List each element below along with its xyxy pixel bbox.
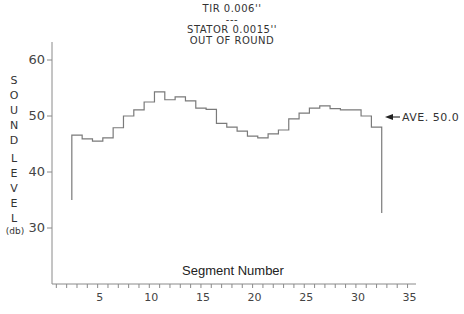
sound-level-step-line xyxy=(72,92,382,213)
x-axis-label: Segment Number xyxy=(182,263,285,278)
x-tick-label: 5 xyxy=(96,291,103,304)
y-tick-label: 60 xyxy=(28,52,45,67)
x-tick-label: 15 xyxy=(196,291,210,304)
x-tick-label: 10 xyxy=(144,291,158,304)
x-tick-label: 20 xyxy=(248,291,262,304)
y-tick-label: 50 xyxy=(28,108,45,123)
y-tick-label: 30 xyxy=(28,220,45,235)
average-annotation: AVE. 50.0 xyxy=(402,111,459,124)
x-tick-label: 30 xyxy=(351,291,365,304)
average-arrow-icon xyxy=(385,114,393,120)
step-chart: 304050605101520253035Segment NumberAVE. … xyxy=(0,0,464,314)
y-tick-label: 40 xyxy=(28,164,45,179)
x-tick-label: 25 xyxy=(299,291,313,304)
x-tick-label: 35 xyxy=(403,291,417,304)
